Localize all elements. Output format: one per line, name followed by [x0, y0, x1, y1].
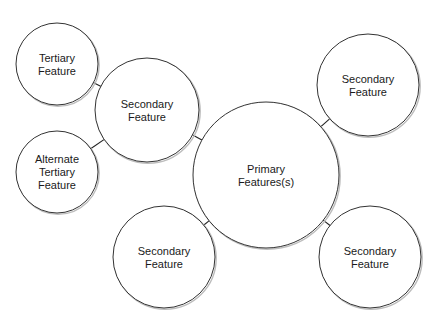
- connector-secondary-left-to-alternate-tertiary: [90, 139, 105, 149]
- node-label-line: Secondary: [121, 98, 174, 110]
- connector-primary-to-secondary-top-right: [320, 118, 331, 127]
- node-label-line: Secondary: [344, 245, 397, 257]
- node-tertiary: TertiaryFeature: [16, 23, 99, 106]
- node-label-line: Feature: [38, 179, 76, 191]
- node-label-line: Feature: [38, 65, 76, 77]
- node-label-line: Feature: [349, 86, 387, 98]
- node-label-line: Features(s): [238, 176, 294, 188]
- node-label-line: Feature: [145, 258, 183, 270]
- node-label-line: Primary: [247, 163, 285, 175]
- node-label-line: Secondary: [138, 245, 191, 257]
- node-secondary-bottom-right: SecondaryFeature: [319, 206, 422, 309]
- node-label-line: Feature: [351, 258, 389, 270]
- feature-nodes: PrimaryFeatures(s)SecondaryFeatureTertia…: [16, 23, 422, 309]
- node-label-line: Tertiary: [39, 166, 76, 178]
- node-primary: PrimaryFeatures(s): [193, 102, 340, 249]
- node-label-line: Alternate: [35, 153, 79, 165]
- bubble-map-diagram: PrimaryFeatures(s)SecondaryFeatureTertia…: [0, 0, 439, 327]
- node-label-line: Secondary: [342, 73, 395, 85]
- node-label-line: Feature: [128, 111, 166, 123]
- node-alternate-tertiary: AlternateTertiaryFeature: [16, 131, 99, 214]
- node-secondary-left: SecondaryFeature: [95, 58, 200, 163]
- node-secondary-bottom-left: SecondaryFeature: [113, 206, 216, 309]
- node-secondary-top-right: SecondaryFeature: [317, 34, 420, 137]
- node-label-line: Tertiary: [39, 52, 76, 64]
